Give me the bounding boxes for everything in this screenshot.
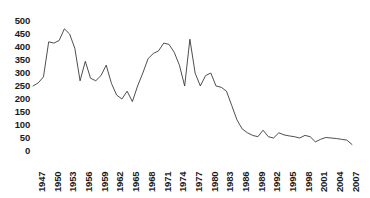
data-line-series-1	[33, 29, 352, 145]
plot-area	[0, 0, 370, 198]
line-chart: 500450400350300250200150100500 194719501…	[0, 0, 370, 198]
